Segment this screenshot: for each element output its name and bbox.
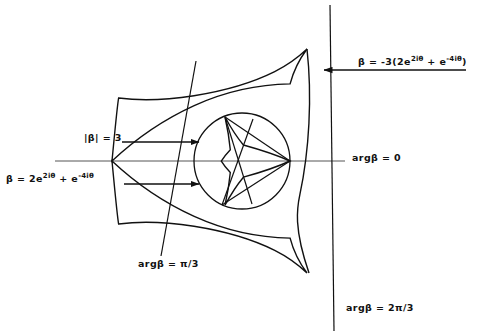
label-beta-positive-main: β = 2e	[6, 173, 43, 184]
chord-upper-cusp-to-center	[225, 117, 290, 161]
label-beta-negative-main: β = -3(2e	[358, 56, 411, 67]
outer-deltoid-curve-lower	[112, 161, 307, 273]
label-beta-positive-exponent-1: 2iθ	[43, 172, 56, 180]
label-arg-2pi-over-3: argβ = 2π/3	[346, 302, 414, 313]
label-arg-zero: argβ = 0	[352, 152, 401, 163]
label-beta-positive-exponent-2: -4iθ	[78, 172, 94, 180]
label-beta-positive: β = 2e2iθ + e-4iθ	[6, 172, 94, 184]
ray-arg-2pi-over-3	[330, 5, 334, 331]
label-abs-beta: |β| = 3	[84, 132, 122, 143]
label-beta-positive-mid: + e	[56, 173, 79, 184]
label-beta-negative-exponent-1: 2iθ	[411, 55, 424, 63]
label-beta-negative-tail: )	[462, 56, 467, 67]
chord-lower-cusp-to-center	[222, 161, 290, 205]
label-beta-negative-mid: + e	[424, 56, 447, 67]
label-beta-negative: β = -3(2e2iθ + e-4iθ)	[358, 55, 467, 67]
label-arg-pi-over-3: argβ = π/3	[138, 258, 199, 269]
deltoid-diagram	[0, 0, 491, 332]
outer-deltoid-curve	[112, 49, 307, 161]
label-beta-negative-exponent-2: -4iθ	[446, 55, 462, 63]
annotation-arrows	[122, 70, 466, 184]
ray-arg-pi-over-3	[161, 61, 196, 256]
